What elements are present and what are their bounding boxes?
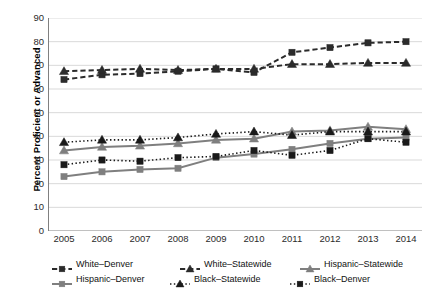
series-line — [64, 63, 406, 71]
legend-row: White–DenverWhite–StatewideHispanic–Stat… — [52, 257, 424, 272]
y-tick-label: 0 — [4, 226, 44, 236]
data-point — [137, 158, 143, 164]
plot-svg — [48, 18, 422, 231]
legend-item[interactable]: Hispanic–Denver — [52, 275, 145, 285]
legend-swatch-triangle-icon — [300, 260, 320, 270]
legend-label: Hispanic–Denver — [76, 275, 145, 284]
legend-item[interactable]: Hispanic–Statewide — [300, 260, 403, 270]
series-2 — [64, 127, 406, 151]
data-point — [173, 133, 182, 141]
data-point — [211, 129, 220, 137]
data-point — [327, 44, 333, 50]
legend-swatch-triangle-icon — [180, 260, 200, 270]
data-point — [289, 49, 295, 55]
data-point — [327, 147, 333, 153]
legend-swatch-square-icon — [52, 260, 72, 270]
series-line — [64, 42, 406, 80]
data-point — [289, 146, 295, 152]
chart-legend: White–DenverWhite–StatewideHispanic–Stat… — [52, 257, 424, 291]
legend-label: White–Denver — [76, 260, 133, 269]
x-tick-label: 2006 — [82, 234, 122, 244]
series-5 — [64, 139, 406, 165]
series-markers-3 — [61, 134, 409, 179]
data-point — [59, 138, 68, 146]
y-tick-label: 30 — [4, 155, 44, 165]
legend-label: White–Statewide — [204, 260, 272, 269]
y-tick-label: 10 — [4, 202, 44, 212]
x-tick-label: 2010 — [234, 234, 274, 244]
data-point — [175, 165, 181, 171]
plot-area — [48, 18, 422, 231]
legend-label: Hispanic–Statewide — [324, 260, 403, 269]
series-markers-1 — [59, 58, 410, 74]
y-tick-label: 90 — [4, 13, 44, 23]
data-point — [213, 153, 219, 159]
data-point — [61, 173, 67, 179]
x-tick-label: 2013 — [348, 234, 388, 244]
legend-swatch-square-icon — [290, 275, 310, 285]
x-tick-label: 2009 — [196, 234, 236, 244]
legend-item[interactable]: Black–Denver — [290, 275, 370, 285]
legend-label: Black–Statewide — [194, 275, 261, 284]
y-tick-label: 50 — [4, 108, 44, 118]
data-point — [289, 152, 295, 158]
data-point — [137, 166, 143, 172]
y-tick-label: 60 — [4, 84, 44, 94]
data-point — [99, 169, 105, 175]
data-point — [249, 127, 258, 135]
series-1 — [64, 63, 406, 71]
data-point — [251, 147, 257, 153]
data-point — [61, 76, 67, 82]
y-tick-label: 70 — [4, 60, 44, 70]
y-axis-tick-labels: 0102030405060708090 — [0, 0, 44, 249]
data-point — [99, 157, 105, 163]
data-point — [61, 162, 67, 168]
legend-label: Black–Denver — [314, 275, 370, 284]
y-tick-label: 80 — [4, 37, 44, 47]
data-point — [365, 40, 371, 46]
y-tick-label: 20 — [4, 179, 44, 189]
y-tick-label: 40 — [4, 131, 44, 141]
x-tick-label: 2014 — [386, 234, 426, 244]
x-tick-label: 2012 — [310, 234, 350, 244]
legend-item[interactable]: White–Statewide — [180, 260, 272, 270]
data-point — [403, 139, 409, 145]
legend-swatch-triangle-icon — [170, 275, 190, 285]
legend-swatch-square-icon — [52, 275, 72, 285]
series-0 — [64, 42, 406, 80]
legend-item[interactable]: Black–Statewide — [170, 275, 261, 285]
x-tick-label: 2011 — [272, 234, 312, 244]
series-line — [64, 139, 406, 165]
legend-item[interactable]: White–Denver — [52, 260, 133, 270]
data-point — [403, 39, 409, 45]
series-line — [64, 127, 406, 151]
data-point — [327, 140, 333, 146]
x-tick-label: 2008 — [158, 234, 198, 244]
chart-container: Percent Proficient or Advanced 010203040… — [0, 0, 433, 297]
data-point — [175, 155, 181, 161]
x-axis-tick-labels: 2005200620072008200920102011201220132014 — [48, 234, 422, 250]
data-point — [365, 136, 371, 142]
x-tick-label: 2007 — [120, 234, 160, 244]
x-tick-label: 2005 — [44, 234, 84, 244]
legend-row: Hispanic–DenverBlack–StatewideBlack–Denv… — [52, 272, 424, 287]
